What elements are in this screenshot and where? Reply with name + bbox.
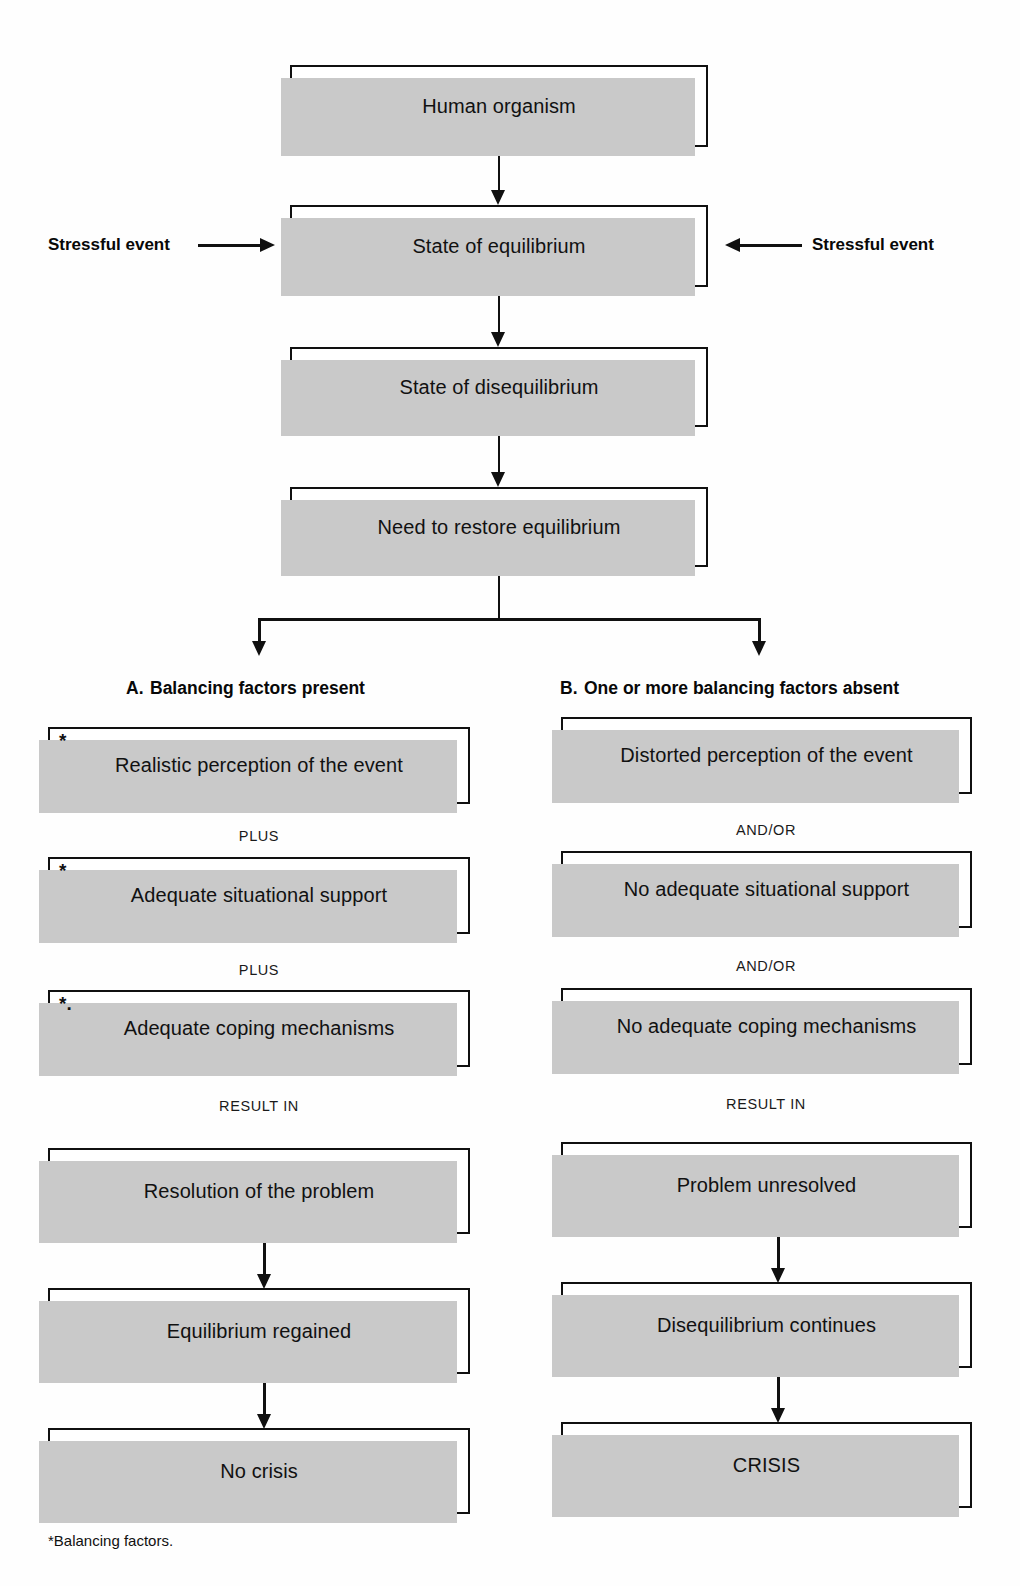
label-stressful-event-left: Stressful event: [48, 235, 170, 255]
node-b-step-2: No adequate situational support: [561, 851, 972, 928]
node-a-step-5: Equilibrium regained: [48, 1288, 470, 1374]
branch-letter: A.: [126, 678, 150, 699]
branch-heading-text: One or more balancing factors absent: [584, 678, 899, 698]
node-label: No crisis: [220, 1460, 298, 1483]
node-label: State of disequilibrium: [399, 376, 598, 399]
node-a-step-3: *. Adequate coping mechanisms: [48, 990, 470, 1067]
node-b-step-4: Problem unresolved: [561, 1142, 972, 1228]
node-b-step-6: CRISIS: [561, 1422, 972, 1508]
node-label: Equilibrium regained: [167, 1320, 351, 1343]
node-label: Human organism: [422, 95, 576, 118]
node-label: Disequilibrium continues: [657, 1314, 876, 1337]
arrow-down-icon: [771, 1268, 785, 1283]
connector-word-a-2: PLUS: [239, 962, 279, 978]
branch-heading-text: Balancing factors present: [150, 678, 365, 698]
arrow-down-icon: [491, 190, 505, 205]
arrow-down-icon: [257, 1274, 271, 1289]
branch-header-a: A.Balancing factors present: [126, 678, 365, 699]
connector-word-b-2: AND/OR: [736, 958, 796, 974]
arrow-down-icon: [252, 641, 266, 656]
node-label: No adequate situational support: [624, 878, 910, 901]
branch-header-b: B.One or more balancing factors absent: [560, 678, 899, 699]
label-stressful-event-right: Stressful event: [812, 235, 934, 255]
node-label: No adequate coping mechanisms: [617, 1015, 917, 1038]
arrow-down-icon: [491, 332, 505, 347]
node-state-of-disequilibrium: State of disequilibrium: [290, 347, 708, 427]
node-a-step-2: * Adequate situational support: [48, 857, 470, 934]
arrow-down-icon: [752, 641, 766, 656]
flowchart-canvas: Human organism State of equilibrium Stre…: [0, 0, 1020, 1586]
node-label: Distorted perception of the event: [620, 744, 912, 767]
node-label: Problem unresolved: [677, 1174, 857, 1197]
node-b-step-5: Disequilibrium continues: [561, 1282, 972, 1368]
node-state-of-equilibrium: State of equilibrium: [290, 205, 708, 287]
asterisk-marker: *: [59, 861, 66, 880]
node-need-to-restore-equilibrium: Need to restore equilibrium: [290, 487, 708, 567]
connector-word-b-1: AND/OR: [736, 822, 796, 838]
node-a-step-6: No crisis: [48, 1428, 470, 1514]
node-label: State of equilibrium: [412, 235, 585, 258]
arrow-down-icon: [771, 1408, 785, 1423]
connector-word-a-1: PLUS: [239, 828, 279, 844]
connector-line-horizontal: [258, 618, 760, 621]
branch-letter: B.: [560, 678, 584, 699]
node-a-step-4: Resolution of the problem: [48, 1148, 470, 1234]
node-human-organism: Human organism: [290, 65, 708, 147]
node-b-step-3: No adequate coping mechanisms: [561, 988, 972, 1065]
connector-word-a-3: RESULT IN: [219, 1098, 299, 1114]
arrow-down-icon: [257, 1414, 271, 1429]
arrow-down-icon: [491, 472, 505, 487]
connector-line: [738, 244, 802, 247]
connector-word-b-3: RESULT IN: [726, 1096, 806, 1112]
footnote-balancing-factors: *Balancing factors.: [48, 1532, 173, 1549]
node-label: Need to restore equilibrium: [378, 516, 621, 539]
node-b-step-1: Distorted perception of the event: [561, 717, 972, 794]
asterisk-marker: *: [59, 731, 66, 750]
node-label: Adequate situational support: [131, 884, 387, 907]
node-label: Adequate coping mechanisms: [124, 1017, 395, 1040]
connector-line: [198, 244, 262, 247]
node-a-step-1: * Realistic perception of the event: [48, 727, 470, 804]
asterisk-marker: *.: [59, 994, 72, 1013]
node-label: Realistic perception of the event: [115, 754, 403, 777]
node-label: CRISIS: [733, 1454, 800, 1477]
arrow-right-icon: [260, 238, 275, 252]
node-label: Resolution of the problem: [144, 1180, 374, 1203]
